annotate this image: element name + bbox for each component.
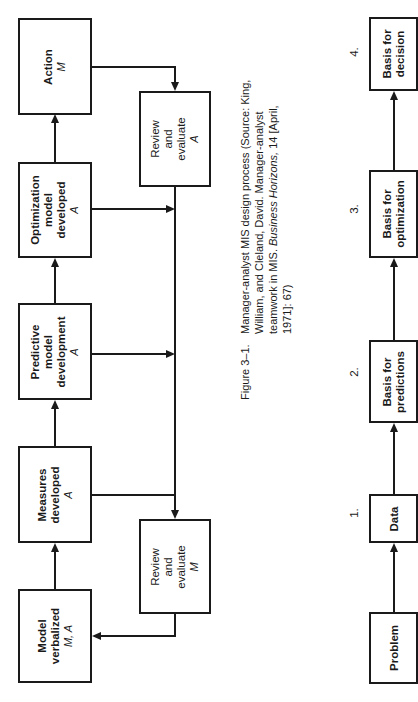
arrow-up-icon xyxy=(51,258,59,267)
action-role: M xyxy=(55,49,68,85)
step-number-2: 2. xyxy=(348,367,360,377)
predictive-line2: model xyxy=(42,316,55,387)
review-a-role: A xyxy=(188,117,201,160)
connector-pred-right xyxy=(92,353,168,355)
arrow-up-icon xyxy=(390,423,398,432)
optimization-basis-line1: Basis for xyxy=(381,180,394,248)
predictions-line2: predictions xyxy=(394,351,407,413)
arrow-up-icon xyxy=(51,114,59,123)
arrow-down-icon xyxy=(171,82,179,91)
figure-label: Figure 3–1. xyxy=(238,344,252,400)
connector-meas-right xyxy=(92,494,176,496)
review-a-line1: Review xyxy=(149,117,162,160)
box-model-verbalized: Model verbalized M, A xyxy=(18,589,92,683)
arrow-up-icon xyxy=(390,543,398,552)
predictive-line1: Predictive xyxy=(29,316,42,387)
problem-label: Problem xyxy=(387,625,400,671)
arrow-down-icon xyxy=(171,510,179,519)
arrow-left-icon xyxy=(92,632,101,640)
decision-line1: Basis for xyxy=(381,29,394,78)
review-m-role: M xyxy=(188,545,201,588)
box-review-evaluate-a: Review and evaluate A xyxy=(139,91,211,187)
predictive-role: A xyxy=(68,316,81,387)
model-verbalized-role: M, A xyxy=(62,608,75,664)
arrow-up-icon xyxy=(390,91,398,100)
connector-pred-to-opt xyxy=(54,266,56,303)
caption-journal: Business Horizons, xyxy=(267,152,279,246)
action-label: Action xyxy=(42,49,55,85)
step-number-4: 4. xyxy=(348,47,360,57)
optimization-role: A xyxy=(68,175,81,245)
box-basis-optimization: Basis for optimization xyxy=(369,170,418,258)
review-m-line3: evaluate xyxy=(175,545,188,588)
measures-line2: developed xyxy=(49,466,62,523)
connector-opt-to-action xyxy=(54,122,56,162)
connector-problem-to-data xyxy=(393,551,395,613)
box-optimization-model: Optimization model developed A xyxy=(18,162,92,258)
connector-review-m-down xyxy=(174,614,176,637)
predictive-line3: development xyxy=(55,316,68,387)
box-basis-predictions: Basis for predictions xyxy=(369,340,418,423)
review-a-line2: and xyxy=(162,117,175,160)
review-m-line1: Review xyxy=(149,545,162,588)
decision-line2: decision xyxy=(394,29,407,78)
box-basis-decision: Basis for decision xyxy=(369,17,418,91)
arrow-up-icon xyxy=(51,400,59,409)
connector-pred-to-opt-basis xyxy=(393,266,395,346)
connector-model-to-meas xyxy=(54,551,56,589)
optimization-line2: model xyxy=(42,175,55,245)
box-action: Action M xyxy=(18,18,92,115)
optimization-line3: developed xyxy=(55,175,68,245)
data-label: Data xyxy=(387,506,400,531)
step-number-3: 3. xyxy=(348,204,360,214)
optimization-line1: Optimization xyxy=(29,175,42,245)
model-verbalized-line2: verbalized xyxy=(49,608,62,664)
measures-role: A xyxy=(62,466,75,523)
box-measures-developed: Measures developed A xyxy=(18,446,92,543)
review-a-line3: evaluate xyxy=(175,117,188,160)
connector-meas-to-pred xyxy=(54,408,56,446)
optimization-basis-line2: optimization xyxy=(394,180,407,248)
box-review-evaluate-m: Review and evaluate M xyxy=(139,519,211,614)
connector-action-right xyxy=(92,66,176,68)
measures-line1: Measures xyxy=(36,466,49,523)
arrow-up-icon xyxy=(390,258,398,267)
box-problem: Problem xyxy=(369,612,418,684)
box-predictive-model: Predictive model development A xyxy=(18,303,92,400)
connector-opt-right xyxy=(92,208,168,210)
vertical-bus xyxy=(174,187,176,512)
predictions-line1: Basis for xyxy=(381,351,394,413)
box-data: Data xyxy=(369,494,418,543)
connector-review-m-left xyxy=(100,635,176,637)
step-number-1: 1. xyxy=(348,508,360,518)
caption-text: Manager-analyst MIS design process (Sour… xyxy=(238,72,294,334)
model-verbalized-line1: Model xyxy=(36,608,49,664)
arrow-up-icon xyxy=(51,543,59,552)
review-m-line2: and xyxy=(162,545,175,588)
